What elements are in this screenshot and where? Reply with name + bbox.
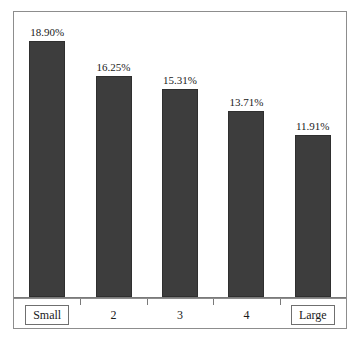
bar-value-label: 13.71% [229, 96, 263, 108]
x-axis-category-label: 3 [170, 306, 190, 324]
x-axis-category-label: Small [25, 305, 69, 325]
bar[interactable] [295, 135, 331, 297]
bar[interactable] [96, 76, 132, 297]
bars-layer: 18.90%16.25%15.31%13.71%11.91% [14, 12, 346, 297]
x-axis-category-label: 4 [236, 306, 256, 324]
bar-group: 13.71% [213, 12, 279, 297]
x-axis-category-5[interactable]: Large [280, 299, 346, 330]
bar-group: 15.31% [147, 12, 213, 297]
bar-value-label: 11.91% [296, 120, 330, 132]
plot-area: 18.90%16.25%15.31%13.71%11.91% [14, 12, 346, 297]
bar-chart-figure: 18.90%16.25%15.31%13.71%11.91% Small234L… [0, 0, 359, 339]
bar-group: 18.90% [14, 12, 80, 297]
bar-value-label: 16.25% [97, 61, 131, 73]
bar-group: 16.25% [80, 12, 146, 297]
bar-value-label: 18.90% [30, 26, 64, 38]
bar[interactable] [228, 111, 264, 297]
x-axis-category-label: 2 [104, 306, 124, 324]
bar[interactable] [162, 89, 198, 297]
bar-group: 11.91% [280, 12, 346, 297]
x-axis-category-4[interactable]: 4 [213, 299, 279, 330]
x-axis-category-3[interactable]: 3 [147, 299, 213, 330]
x-axis-category-2[interactable]: 2 [80, 299, 146, 330]
bar-value-label: 15.31% [163, 74, 197, 86]
x-axis-category-label: Large [291, 305, 335, 325]
x-axis-label-band: Small234Large [14, 298, 346, 329]
bar[interactable] [29, 41, 65, 298]
x-axis-category-1[interactable]: Small [14, 299, 80, 330]
